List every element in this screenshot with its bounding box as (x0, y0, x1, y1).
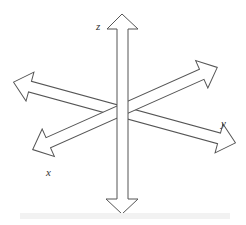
caption-illegible (20, 213, 230, 219)
y-axis-label: y (220, 117, 226, 129)
z-axis-label: z (95, 20, 101, 32)
axes-diagram: z y x (0, 0, 246, 225)
x-axis-label: x (45, 166, 51, 178)
